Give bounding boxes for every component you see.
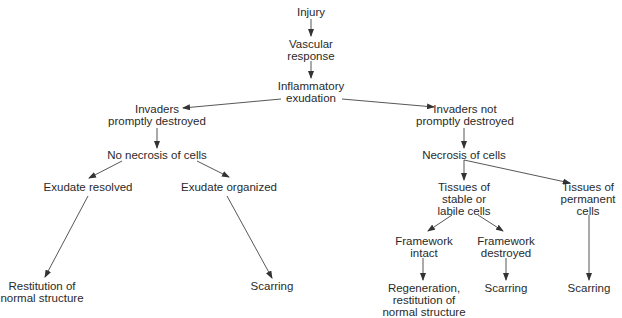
arrow-to-scarring-left [227,196,272,278]
node-no-necrosis-of-cells: No necrosis of cells [107,149,207,161]
arrow-to-exudate-resolved [89,161,122,178]
node-invaders-promptly-destroyed: Invaders promptly destroyed [108,103,206,127]
node-framework-destroyed: Framework destroyed [477,235,535,259]
arrow-to-framework-intact [428,215,452,231]
node-invaders-not-promptly-destroyed: Invaders not promptly destroyed [416,103,514,127]
arrow-to-exudate-organized [197,161,229,177]
inflammation-flowchart: Injury Vascular response Inflammatory ex… [0,0,622,318]
node-scarring-left: Scarring [251,280,294,292]
node-injury: Injury [297,6,325,18]
arrow-to-framework-destroyed [478,215,503,231]
node-necrosis-of-cells: Necrosis of cells [422,149,506,161]
node-scarring-right: Scarring [568,282,611,294]
node-inflammatory-exudation: Inflammatory exudation [278,80,344,104]
node-vascular-response: Vascular response [287,38,334,62]
node-exudate-organized: Exudate organized [181,181,277,193]
node-tissues-stable-labile: Tissues of stable or labile cells [437,181,490,217]
node-restitution-normal-structure: Restitution of normal structure [0,280,83,304]
node-framework-intact: Framework intact [395,235,453,259]
arrow-to-restitution [45,196,88,277]
node-exudate-resolved: Exudate resolved [44,181,133,193]
arrow-to-tissues-permanent [464,160,570,183]
node-regeneration: Regeneration, restitution of normal stru… [382,282,465,318]
node-tissues-permanent: Tissues of permanent cells [561,181,616,217]
node-scarring-mid: Scarring [485,282,528,294]
